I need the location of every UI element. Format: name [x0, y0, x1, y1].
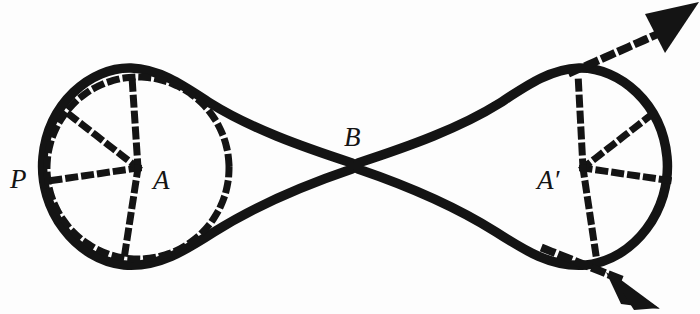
left-spoke-northwest	[66, 112, 138, 168]
right-spoke-north	[578, 74, 583, 168]
label-a: A	[151, 165, 170, 195]
upper-right-arrow-shaft	[572, 33, 660, 72]
right-spoke-south	[583, 168, 597, 262]
right-lobe-outline	[358, 68, 667, 265]
right-spoke-northeast	[583, 112, 655, 168]
upper-right-arrow-head	[645, 2, 699, 53]
upper-right-arrow	[572, 2, 699, 72]
right-spoke-east	[583, 168, 673, 181]
left-spoke-south	[124, 168, 138, 259]
diagram-canvas: P A B A′	[0, 0, 700, 314]
right-spokes	[578, 74, 673, 262]
label-p: P	[9, 164, 27, 194]
figure-eight-diagram: P A B A′	[0, 0, 700, 314]
left-spoke-north	[132, 77, 138, 168]
label-b: B	[344, 122, 361, 152]
label-a-prime: A′	[535, 165, 560, 195]
left-spoke-west	[48, 168, 138, 181]
